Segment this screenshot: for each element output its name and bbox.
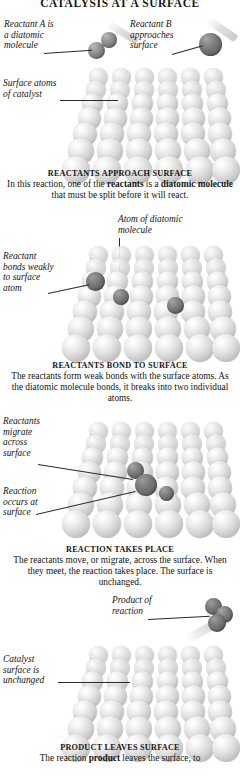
caption-heading-1: REACTANTS APPROACH SURFACE bbox=[0, 169, 240, 179]
leader-surface-atoms bbox=[60, 100, 118, 101]
leader-product bbox=[148, 616, 210, 620]
panel-reaction-takes-place: Reactants migrate across surface Reactio… bbox=[0, 406, 240, 546]
product-of-reaction-label: Product of reaction bbox=[112, 595, 190, 616]
caption-heading-2: REACTANTS BOND TO SURFACE bbox=[0, 361, 240, 371]
page-title: CATALYSIS AT A SURFACE bbox=[0, 0, 240, 9]
panel-product-leaves: Product of reaction bbox=[0, 592, 240, 744]
split-atom-1 bbox=[113, 289, 129, 305]
reaction-occurs-label: Reaction occurs at surface bbox=[3, 486, 65, 518]
caption-reaction-takes-place: REACTION TAKES PLACE The reactants move,… bbox=[0, 545, 240, 588]
migrating-atom-2 bbox=[159, 486, 174, 501]
reactant-bonds-weakly-label: Reactant bonds weakly to surface atom bbox=[3, 251, 77, 293]
surface-atoms-label: Surface atoms of catalyst bbox=[3, 78, 83, 99]
caption-body-4: The reaction product leaves the surface,… bbox=[0, 753, 240, 764]
caption-heading-3: REACTION TAKES PLACE bbox=[0, 545, 240, 555]
caption-reactants-approach: REACTANTS APPROACH SURFACE In this react… bbox=[0, 169, 240, 201]
reactant-b-label: Reactant B approaches surface bbox=[130, 19, 200, 51]
reactant-a-atom-2 bbox=[101, 32, 117, 48]
caption-heading-4: PRODUCT LEAVES SURFACE bbox=[0, 743, 240, 753]
caption-body-3: The reactants move, or migrate, across t… bbox=[0, 555, 240, 588]
split-atom-2 bbox=[167, 297, 184, 314]
product-atom-3 bbox=[208, 614, 226, 632]
caption-product-leaves: PRODUCT LEAVES SURFACE The reaction prod… bbox=[0, 743, 240, 764]
leader-catalyst-unchanged bbox=[58, 682, 130, 683]
bonded-reactant-b bbox=[86, 272, 105, 291]
atom-of-diatomic-label: Atom of diatomic molecule bbox=[118, 214, 228, 235]
reactant-a-label: Reactant A is a diatomic molecule bbox=[4, 19, 86, 51]
reaction-center-atom bbox=[135, 474, 157, 496]
catalyst-unchanged-label: Catalyst surface is unchanged bbox=[3, 654, 73, 686]
catalysis-diagram: CATALYSIS AT A SURFACE Reactant A is a d… bbox=[0, 0, 240, 775]
caption-reactants-bond: REACTANTS BOND TO SURFACE The reactants … bbox=[0, 361, 240, 404]
caption-body-1: In this reaction, one of the reactants i… bbox=[0, 179, 240, 201]
caption-body-2: The reactants form weak bonds with the s… bbox=[0, 371, 240, 404]
reactants-migrate-label: Reactants migrate across surface bbox=[3, 416, 71, 458]
